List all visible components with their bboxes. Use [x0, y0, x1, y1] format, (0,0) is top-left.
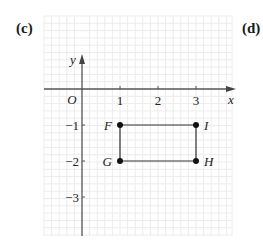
x-tick-1: 1 [117, 93, 124, 108]
axis-ticks [82, 86, 196, 197]
point-F [117, 122, 123, 128]
point-I [193, 122, 199, 128]
point-H [193, 158, 199, 164]
point-label-G: G [103, 154, 113, 169]
x-tick-2: 2 [155, 93, 162, 108]
coordinate-plane: 1 2 3 −1 −2 −3 O x y F I H G [0, 0, 263, 248]
x-axis-label: x [227, 92, 234, 107]
y-tick-minus-1: −1 [65, 118, 79, 133]
point-G [117, 158, 123, 164]
origin-label: O [67, 92, 77, 107]
y-axis-label: y [68, 52, 76, 67]
y-tick-minus-3: −3 [65, 190, 79, 205]
point-label-F: F [103, 118, 113, 133]
point-label-I: I [203, 118, 209, 133]
y-tick-minus-2: −2 [65, 154, 79, 169]
x-tick-3: 3 [193, 93, 200, 108]
point-label-H: H [203, 154, 214, 169]
